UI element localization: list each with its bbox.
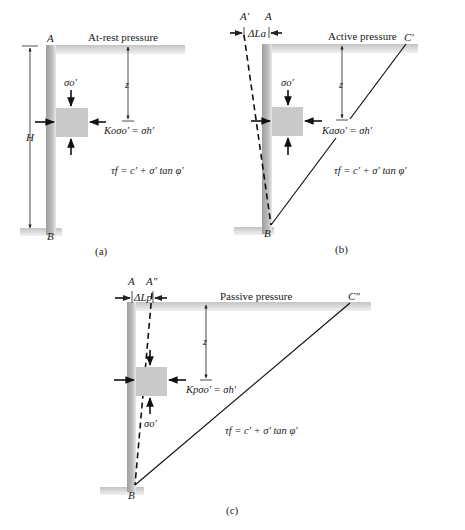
failure-plane bbox=[135, 303, 350, 485]
wedge-point-label: C″ bbox=[348, 290, 360, 302]
point-a-label: A bbox=[264, 10, 272, 22]
height-label: H bbox=[25, 131, 35, 143]
ground-surface bbox=[127, 302, 371, 311]
point-a-label: A bbox=[46, 32, 54, 44]
point-b-label: B bbox=[264, 227, 271, 239]
point-b-label: B bbox=[128, 489, 135, 501]
panel-title: Active pressure bbox=[328, 30, 397, 42]
horizontal-stress-equation: Kaσo′ = σh′ bbox=[321, 125, 373, 136]
displacement-label: ΔLp bbox=[133, 291, 153, 303]
base-ground bbox=[100, 487, 144, 495]
retaining-wall bbox=[46, 45, 56, 235]
point-b-label: B bbox=[47, 230, 54, 242]
failure-plane-upper bbox=[350, 44, 406, 119]
moved-point-label: A″ bbox=[145, 275, 158, 287]
depth-label: z bbox=[124, 79, 129, 90]
ground-surface bbox=[262, 44, 418, 53]
vertical-stress-label: σo′ bbox=[281, 77, 294, 88]
panel-caption: (a) bbox=[95, 245, 108, 258]
depth-label: z bbox=[202, 336, 207, 347]
horizontal-stress-equation: Koσo′ = σh′ bbox=[103, 125, 155, 136]
panel-caption: (b) bbox=[335, 243, 348, 256]
soil-element bbox=[272, 107, 303, 136]
horizontal-stress-equation: Kpσo′ = σh′ bbox=[185, 384, 237, 395]
retaining-wall bbox=[127, 302, 136, 492]
panel-title: At-rest pressure bbox=[88, 31, 158, 43]
retaining-wall bbox=[262, 44, 272, 234]
shear-strength-equation: τf = c′ + σ′ tan φ′ bbox=[111, 165, 184, 176]
panel-active: A′ A C′ B ΔLa Active pressure z σo′ Kaσo… bbox=[230, 10, 418, 256]
displacement-label: ΔLa bbox=[247, 27, 267, 39]
failure-plane bbox=[271, 138, 336, 225]
panel-title: Passive pressure bbox=[220, 290, 293, 302]
panel-caption: (c) bbox=[226, 504, 239, 517]
moved-point-label: A′ bbox=[239, 10, 250, 22]
point-a-label: A bbox=[127, 275, 135, 287]
earth-pressure-diagram: H A B At-rest pressure z σo′ Koσo′ = σh′… bbox=[0, 0, 465, 530]
panel-at-rest: H A B At-rest pressure z σo′ Koσo′ = σh′… bbox=[20, 31, 185, 258]
soil-element bbox=[56, 108, 88, 137]
ground-surface bbox=[52, 45, 185, 54]
shear-strength-equation: τf = c′ + σ′ tan φ′ bbox=[334, 165, 407, 176]
shear-strength-equation: τf = c′ + σ′ tan φ′ bbox=[225, 425, 298, 436]
vertical-stress-label: σo′ bbox=[144, 418, 157, 429]
panel-passive: A A″ C″ B ΔLp Passive pressure z σo′ Kpσ… bbox=[100, 275, 371, 517]
depth-label: z bbox=[338, 79, 343, 90]
soil-element bbox=[136, 367, 167, 396]
vertical-stress-label: σo′ bbox=[64, 77, 77, 88]
wedge-point-label: C′ bbox=[404, 31, 414, 43]
